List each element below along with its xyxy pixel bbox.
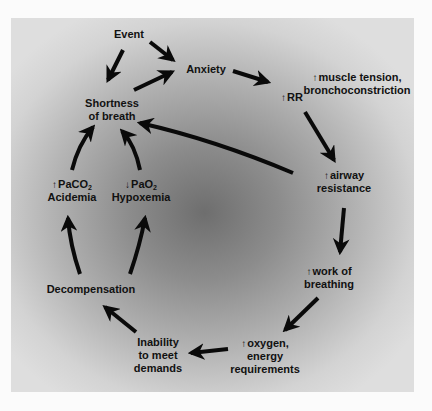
arrow-pao2-to-sob bbox=[122, 131, 140, 170]
node-anxiety-label: Anxiety bbox=[186, 63, 226, 76]
node-anxiety: Anxiety bbox=[186, 63, 226, 76]
node-airway-resistance-line2: resistance bbox=[317, 182, 371, 195]
node-muscle-tension-line1: muscle tension, bbox=[318, 71, 401, 83]
arrow-work-to-oxygen bbox=[285, 298, 318, 330]
node-inability-line3: demands bbox=[134, 362, 182, 375]
node-muscle-tension-line2: bronchoconstriction bbox=[304, 84, 411, 97]
arrow-decomp-to-paco2 bbox=[68, 218, 80, 274]
arrows-layer bbox=[0, 0, 432, 411]
node-inability: Inability to meet demands bbox=[134, 336, 182, 375]
node-oxygen-energy: ↑oxygen, energy requirements bbox=[230, 337, 300, 376]
node-shortness-of-breath: Shortness of breath bbox=[85, 97, 139, 123]
node-paco2-base: PaCO bbox=[58, 178, 88, 190]
node-inability-line2: to meet bbox=[134, 349, 182, 362]
node-muscle-tension: ↑muscle tension, bronchoconstriction bbox=[304, 71, 411, 97]
node-sob-line2: of breath bbox=[85, 110, 139, 123]
node-pao2-subscript: 2 bbox=[153, 184, 157, 191]
node-paco2-line2: Acidemia bbox=[48, 191, 97, 204]
arrow-oxygen-to-inability bbox=[191, 349, 228, 353]
arrow-sob-to-anxiety bbox=[134, 72, 172, 90]
increase-arrow-icon: ↑ bbox=[281, 92, 286, 103]
arrow-event-to-anxiety bbox=[150, 42, 173, 60]
node-event-label: Event bbox=[114, 28, 144, 41]
node-decompensation-label: Decompensation bbox=[47, 283, 136, 296]
arrow-rr-to-airway bbox=[305, 112, 334, 160]
arrow-anxiety-to-rr bbox=[233, 71, 268, 82]
node-oxygen-energy-line2: energy bbox=[230, 350, 300, 363]
node-event: Event bbox=[114, 28, 144, 41]
increase-arrow-icon: ↑ bbox=[52, 179, 57, 190]
node-airway-resistance-line1: airway bbox=[330, 169, 364, 181]
figure-page: Event Anxiety ↑muscle tension, bronchoco… bbox=[0, 0, 432, 411]
node-airway-resistance: ↑airway resistance bbox=[317, 169, 371, 195]
increase-arrow-icon: ↑ bbox=[312, 72, 317, 83]
arrow-paco2-to-sob bbox=[72, 127, 93, 170]
node-rr-label: RR bbox=[287, 91, 303, 103]
arrow-event-to-sob bbox=[108, 50, 123, 80]
node-pao2-line2: Hypoxemia bbox=[112, 191, 171, 204]
node-paco2-subscript: 2 bbox=[88, 184, 92, 191]
arrow-inability-to-decomp bbox=[105, 307, 136, 332]
increase-arrow-icon: ↑ bbox=[324, 170, 329, 181]
node-work-of-breathing-line1: work of bbox=[312, 265, 351, 277]
node-pao2-base: PaO bbox=[131, 178, 153, 190]
arrow-airway-to-sob bbox=[140, 123, 293, 173]
arrow-airway-to-work bbox=[340, 208, 344, 252]
node-oxygen-energy-line3: requirements bbox=[230, 363, 300, 376]
increase-arrow-icon: ↑ bbox=[241, 338, 246, 349]
node-decompensation: Decompensation bbox=[47, 283, 136, 296]
arrow-decomp-to-pao2 bbox=[130, 218, 145, 274]
node-paco2: ↑PaCO2 Acidemia bbox=[48, 178, 97, 204]
node-sob-line1: Shortness bbox=[85, 97, 139, 110]
increase-arrow-icon: ↑ bbox=[306, 266, 311, 277]
node-oxygen-energy-line1: oxygen, bbox=[247, 337, 289, 349]
decrease-arrow-icon: ↓ bbox=[125, 179, 130, 190]
node-work-of-breathing: ↑work of breathing bbox=[304, 265, 354, 291]
node-pao2: ↓PaO2 Hypoxemia bbox=[112, 178, 171, 204]
node-work-of-breathing-line2: breathing bbox=[304, 278, 354, 291]
node-rr: ↑RR bbox=[281, 91, 303, 104]
node-inability-line1: Inability bbox=[134, 336, 182, 349]
